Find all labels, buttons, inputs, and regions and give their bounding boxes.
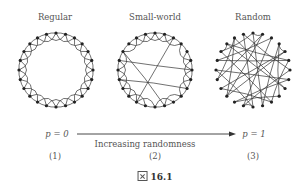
p-zero-label: p = 0 bbox=[45, 129, 68, 139]
node bbox=[233, 36, 236, 39]
node bbox=[127, 95, 130, 98]
node bbox=[185, 50, 188, 53]
edge bbox=[20, 44, 31, 61]
node bbox=[190, 68, 193, 71]
node bbox=[86, 87, 89, 90]
node bbox=[19, 59, 22, 62]
title-random: Random bbox=[235, 12, 271, 22]
edge bbox=[129, 34, 146, 45]
node bbox=[216, 78, 219, 81]
title-regular: Regular bbox=[38, 12, 72, 22]
node bbox=[135, 36, 138, 39]
node bbox=[121, 87, 124, 90]
node bbox=[270, 36, 273, 39]
edge bbox=[30, 94, 47, 105]
node bbox=[64, 104, 67, 107]
edge bbox=[119, 80, 130, 97]
edge bbox=[30, 34, 47, 45]
index-1: (1) bbox=[49, 151, 61, 161]
node bbox=[45, 33, 48, 36]
node bbox=[64, 33, 67, 36]
node bbox=[214, 68, 217, 71]
node bbox=[116, 68, 119, 71]
arrow-caption: Increasing randomness bbox=[95, 139, 196, 149]
node bbox=[172, 36, 175, 39]
node bbox=[121, 50, 124, 53]
node bbox=[225, 95, 228, 98]
node bbox=[28, 42, 31, 45]
edge bbox=[235, 38, 286, 89]
node bbox=[135, 100, 138, 103]
edge bbox=[46, 99, 65, 105]
node bbox=[185, 87, 188, 90]
network-graphs bbox=[0, 0, 305, 191]
node bbox=[118, 78, 121, 81]
node bbox=[86, 50, 89, 53]
randomness-arrow bbox=[77, 132, 236, 137]
node bbox=[22, 50, 25, 53]
node bbox=[45, 104, 48, 107]
node bbox=[172, 100, 175, 103]
node bbox=[287, 59, 290, 62]
edge bbox=[145, 34, 164, 40]
node bbox=[22, 87, 25, 90]
node bbox=[163, 104, 166, 107]
node bbox=[219, 87, 222, 90]
node bbox=[153, 31, 156, 34]
node bbox=[251, 31, 254, 34]
node bbox=[283, 87, 286, 90]
node bbox=[180, 42, 183, 45]
node bbox=[180, 95, 183, 98]
edge bbox=[66, 94, 83, 105]
node bbox=[278, 95, 281, 98]
index-3: (3) bbox=[247, 151, 259, 161]
node bbox=[54, 31, 57, 34]
edge bbox=[243, 34, 290, 70]
node bbox=[118, 59, 121, 62]
small-world-graph bbox=[116, 31, 193, 108]
edge bbox=[278, 44, 279, 96]
edge bbox=[46, 34, 65, 40]
node bbox=[261, 104, 264, 107]
node bbox=[153, 105, 156, 108]
node bbox=[90, 59, 93, 62]
node bbox=[225, 42, 228, 45]
edge bbox=[119, 60, 125, 79]
node bbox=[91, 68, 94, 71]
figure-caption: 16.1 bbox=[138, 171, 173, 182]
node bbox=[36, 36, 39, 39]
edge bbox=[20, 60, 26, 79]
node bbox=[90, 78, 93, 81]
edge bbox=[165, 94, 182, 105]
node bbox=[270, 100, 273, 103]
node bbox=[81, 95, 84, 98]
regular-ring-graph bbox=[17, 31, 94, 108]
edge bbox=[66, 34, 83, 45]
node bbox=[242, 33, 245, 36]
node bbox=[28, 95, 31, 98]
node bbox=[283, 50, 286, 53]
edge bbox=[179, 44, 190, 61]
random-graph bbox=[214, 31, 291, 108]
node bbox=[189, 59, 192, 62]
p-one-label: p = 1 bbox=[242, 129, 265, 139]
edge bbox=[129, 94, 146, 105]
edge bbox=[20, 80, 31, 97]
figure-icon bbox=[138, 171, 148, 181]
node bbox=[73, 36, 76, 39]
node bbox=[242, 104, 245, 107]
node bbox=[251, 105, 254, 108]
node bbox=[189, 78, 192, 81]
node bbox=[19, 78, 22, 81]
node bbox=[127, 42, 130, 45]
title-small-world: Small-world bbox=[129, 12, 181, 22]
node bbox=[261, 33, 264, 36]
node bbox=[144, 104, 147, 107]
node bbox=[219, 50, 222, 53]
edge bbox=[80, 44, 91, 61]
node bbox=[216, 59, 219, 62]
node bbox=[287, 78, 290, 81]
node bbox=[144, 33, 147, 36]
node bbox=[233, 100, 236, 103]
index-2: (2) bbox=[149, 151, 161, 161]
